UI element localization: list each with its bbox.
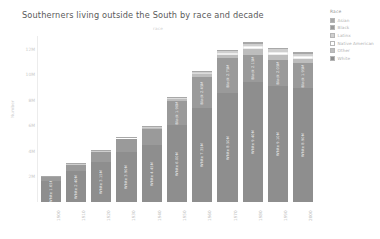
y-axis-tick-label: 4M bbox=[28, 148, 35, 153]
bar-segment-white[interactable]: White 1.65M bbox=[41, 181, 61, 202]
plot-area: 12M10M8M6M4M2MWhite 1.65MWhite 2.40MWhit… bbox=[38, 36, 316, 202]
y-axis-title: Number bbox=[10, 100, 15, 118]
bar-segment-white[interactable]: White 2.40M bbox=[66, 171, 86, 202]
bar-segment-black[interactable]: Black 2.45M bbox=[192, 77, 212, 108]
bar-segment-asian[interactable] bbox=[243, 42, 263, 44]
legend-item-white[interactable]: White bbox=[330, 54, 378, 62]
x-axis-tick-label: 1950 bbox=[182, 210, 187, 221]
legend-swatch-icon bbox=[330, 41, 335, 46]
bar-segment-other[interactable] bbox=[243, 49, 263, 54]
legend-swatch-icon bbox=[330, 18, 335, 23]
bar-segment-black[interactable] bbox=[116, 139, 136, 152]
bar-1980[interactable]: White 9.40MBlack 2.15M bbox=[243, 42, 263, 202]
bar-segment-label: White 4.45M bbox=[150, 162, 154, 186]
legend-item-latinx[interactable]: Latinx bbox=[330, 32, 378, 40]
bar-segment-other[interactable] bbox=[91, 151, 111, 152]
legend: Race AsianBlackLatinxNative AmericanOthe… bbox=[330, 9, 378, 62]
bar-1900[interactable]: White 1.65M bbox=[41, 176, 61, 202]
bar-segment-native-american[interactable] bbox=[167, 98, 187, 99]
bar-segment-other[interactable] bbox=[192, 74, 212, 77]
bar-segment-label: White 6.00M bbox=[175, 152, 179, 176]
bar-segment-other[interactable] bbox=[116, 138, 136, 139]
bar-1920[interactable]: White 3.15M bbox=[91, 150, 111, 202]
bar-segment-black[interactable] bbox=[91, 152, 111, 162]
bar-segment-white[interactable]: White 9.10M bbox=[268, 86, 288, 202]
bar-segment-asian[interactable] bbox=[167, 97, 187, 98]
legend-item-label: Native American bbox=[338, 41, 374, 46]
bar-segment-white[interactable]: White 9.40M bbox=[243, 82, 263, 202]
bar-segment-native-american[interactable] bbox=[192, 73, 212, 74]
legend-swatch-icon bbox=[330, 25, 335, 30]
bar-segment-other[interactable] bbox=[142, 128, 162, 129]
bar-segment-native-american[interactable] bbox=[268, 52, 288, 55]
bar-segment-asian[interactable] bbox=[293, 52, 313, 54]
y-axis-tick-label: 12M bbox=[26, 46, 35, 51]
bar-segment-latinx[interactable] bbox=[167, 97, 187, 98]
chart-title: Southerners living outside the South by … bbox=[22, 10, 264, 20]
bar-segment-other[interactable] bbox=[268, 55, 288, 60]
bar-segment-black[interactable]: Black 1.90M bbox=[167, 101, 187, 125]
bar-segment-latinx[interactable] bbox=[192, 72, 212, 73]
legend-item-native-american[interactable]: Native American bbox=[330, 39, 378, 47]
bar-segment-label: Black 2.05M bbox=[276, 61, 280, 84]
bar-segment-native-american[interactable] bbox=[142, 127, 162, 128]
bar-segment-latinx[interactable] bbox=[217, 51, 237, 53]
bar-segment-native-american[interactable] bbox=[217, 53, 237, 55]
bar-segment-black[interactable] bbox=[66, 165, 86, 172]
y-axis-tick-label: 8M bbox=[28, 97, 35, 102]
x-axis-tick-label: 1940 bbox=[157, 210, 162, 221]
bar-segment-white[interactable]: White 3.90M bbox=[116, 152, 136, 202]
bar-segment-label: White 9.40M bbox=[251, 130, 255, 154]
bar-segment-native-american[interactable] bbox=[243, 46, 263, 49]
bar-2000[interactable]: White 8.90MBlack 1.95M bbox=[293, 52, 313, 202]
bar-1910[interactable]: White 2.40M bbox=[66, 163, 86, 202]
x-axis-tick-label: 1920 bbox=[107, 210, 112, 221]
legend-title: Race bbox=[330, 9, 378, 14]
bar-segment-black[interactable]: Black 2.05M bbox=[268, 60, 288, 86]
bar-segment-asian[interactable] bbox=[268, 48, 288, 50]
bar-1960[interactable]: White 7.35MBlack 2.45M bbox=[192, 71, 212, 202]
bar-1940[interactable]: White 4.45M bbox=[142, 126, 162, 202]
bar-1970[interactable]: White 8.50MBlack 2.75M bbox=[217, 50, 237, 202]
bar-segment-label: Black 2.45M bbox=[200, 81, 204, 104]
bar-segment-latinx[interactable] bbox=[142, 127, 162, 128]
bar-segment-label: White 8.90M bbox=[301, 133, 305, 157]
bar-segment-label: White 3.90M bbox=[124, 165, 128, 189]
bar-segment-latinx[interactable] bbox=[268, 49, 288, 51]
bar-segment-other[interactable] bbox=[66, 164, 86, 165]
bar-segment-latinx[interactable] bbox=[293, 54, 313, 56]
bar-segment-black[interactable]: Black 2.75M bbox=[217, 58, 237, 93]
chart-top-note: race bbox=[0, 26, 316, 31]
x-axis-tick-label: 1960 bbox=[208, 210, 213, 221]
bar-segment-black[interactable]: Black 1.95M bbox=[293, 63, 313, 88]
bar-segment-asian[interactable] bbox=[192, 71, 212, 72]
legend-item-label: Asian bbox=[338, 18, 350, 23]
bar-segment-white[interactable]: White 8.50M bbox=[217, 93, 237, 202]
bar-segment-label: White 9.10M bbox=[276, 132, 280, 156]
bar-segment-label: Black 2.15M bbox=[251, 57, 255, 80]
legend-item-other[interactable]: Other bbox=[330, 47, 378, 55]
bar-segment-white[interactable]: White 7.35M bbox=[192, 108, 212, 202]
bar-segment-asian[interactable] bbox=[217, 50, 237, 51]
bar-segment-white[interactable]: White 8.90M bbox=[293, 88, 313, 202]
legend-item-asian[interactable]: Asian bbox=[330, 17, 378, 25]
bar-segment-black[interactable]: Black 2.15M bbox=[243, 55, 263, 82]
bar-1990[interactable]: White 9.10MBlack 2.05M bbox=[268, 48, 288, 202]
bar-segment-white[interactable]: White 3.15M bbox=[91, 162, 111, 202]
bar-segment-black[interactable] bbox=[41, 177, 61, 181]
bar-segment-white[interactable]: White 4.45M bbox=[142, 145, 162, 202]
x-axis-tick-label: 1930 bbox=[132, 210, 137, 221]
bar-segment-native-american[interactable] bbox=[293, 56, 313, 59]
bar-segment-white[interactable]: White 6.00M bbox=[167, 125, 187, 202]
bar-1930[interactable]: White 3.90M bbox=[116, 137, 136, 202]
bar-segment-other[interactable] bbox=[217, 55, 237, 59]
bar-segment-label: Black 1.90M bbox=[175, 102, 179, 125]
bar-1950[interactable]: White 6.00MBlack 1.90M bbox=[167, 97, 187, 202]
bar-segment-other[interactable] bbox=[167, 99, 187, 101]
bar-segment-other[interactable] bbox=[293, 59, 313, 64]
bar-segment-black[interactable] bbox=[142, 129, 162, 145]
bar-segment-latinx[interactable] bbox=[243, 44, 263, 46]
x-axis-tick-label: 1970 bbox=[233, 210, 238, 221]
legend-item-black[interactable]: Black bbox=[330, 24, 378, 32]
bar-segment-native-american[interactable] bbox=[116, 138, 136, 139]
